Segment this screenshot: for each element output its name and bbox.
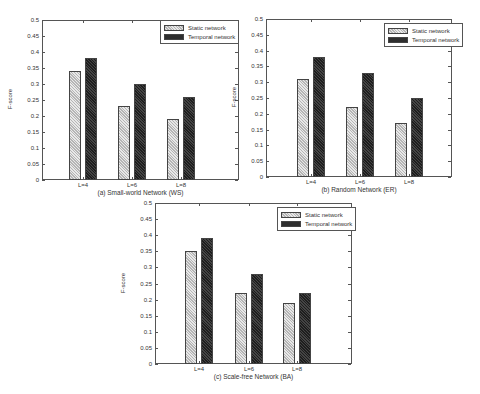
y-tick-label: 0.5 xyxy=(241,16,263,22)
legend-item-static: Static network xyxy=(388,26,459,35)
y-tick-mark-right xyxy=(348,203,351,204)
y-tick-mark xyxy=(42,148,45,149)
y-tick-mark-right xyxy=(235,52,238,53)
x-tick-mark xyxy=(181,177,182,180)
x-tick-mark xyxy=(311,174,312,177)
x-tick-mark-top xyxy=(297,203,298,206)
bar-static-l4 xyxy=(297,79,309,177)
y-tick-mark xyxy=(42,36,45,37)
legend-swatch-static xyxy=(388,28,408,34)
y-tick-mark xyxy=(155,284,158,285)
y-tick-mark-right xyxy=(348,251,351,252)
y-tick-mark-right xyxy=(448,145,451,146)
y-tick-mark xyxy=(266,177,269,178)
y-tick-label: 0.35 xyxy=(130,248,152,254)
y-tick-label: 0.5 xyxy=(130,200,152,206)
bar-temporal-l4 xyxy=(201,238,213,364)
legend: Static networkTemporal network xyxy=(277,207,356,231)
x-tick-label: L=4 xyxy=(184,366,214,372)
y-tick-mark-right xyxy=(348,267,351,268)
legend-item-temporal: Temporal network xyxy=(281,219,352,228)
y-tick-mark-right xyxy=(448,82,451,83)
y-tick-mark xyxy=(42,52,45,53)
bar-static-l4 xyxy=(185,251,197,364)
legend-swatch-static xyxy=(164,25,184,31)
y-tick-mark xyxy=(42,180,45,181)
y-tick-label: 0.25 xyxy=(130,281,152,287)
y-tick-label: 0.2 xyxy=(241,111,263,117)
y-tick-mark xyxy=(155,251,158,252)
y-tick-mark xyxy=(266,114,269,115)
x-tick-label: L=8 xyxy=(166,182,196,188)
y-tick-mark-right xyxy=(448,177,451,178)
x-tick-mark-top xyxy=(83,20,84,23)
x-tick-label: L=6 xyxy=(234,366,264,372)
bar-temporal-l4 xyxy=(313,57,325,177)
y-tick-label: 0.4 xyxy=(241,48,263,54)
legend-item-temporal: Temporal network xyxy=(164,32,235,41)
y-tick-mark xyxy=(266,98,269,99)
y-tick-mark-right xyxy=(235,84,238,85)
x-tick-mark xyxy=(132,177,133,180)
legend: Static networkTemporal network xyxy=(160,20,239,44)
chart-caption: (a) Small-world Network (WS) xyxy=(42,189,239,196)
legend-item-temporal: Temporal network xyxy=(388,35,459,44)
bar-static-l8 xyxy=(167,119,179,180)
x-tick-mark-top xyxy=(199,203,200,206)
y-tick-mark xyxy=(42,68,45,69)
x-tick-mark xyxy=(297,361,298,364)
y-axis-label: F-score xyxy=(231,87,237,107)
bar-temporal-l8 xyxy=(183,97,195,180)
y-tick-mark xyxy=(155,348,158,349)
y-tick-mark xyxy=(155,219,158,220)
bar-static-l8 xyxy=(283,303,295,364)
y-tick-label: 0.4 xyxy=(17,49,39,55)
y-tick-label: 0.4 xyxy=(130,232,152,238)
y-tick-label: 0 xyxy=(130,361,152,367)
bar-temporal-l6 xyxy=(362,73,374,177)
y-tick-label: 0.45 xyxy=(130,216,152,222)
y-tick-mark-right xyxy=(235,164,238,165)
y-tick-mark xyxy=(42,20,45,21)
y-tick-label: 0.05 xyxy=(241,158,263,164)
y-tick-mark xyxy=(155,364,158,365)
y-tick-label: 0.1 xyxy=(130,329,152,335)
legend-item-static: Static network xyxy=(164,23,235,32)
legend-swatch-temporal xyxy=(388,37,408,43)
y-tick-mark-right xyxy=(348,364,351,365)
y-tick-label: 0.45 xyxy=(17,33,39,39)
legend-swatch-static xyxy=(281,212,301,218)
y-tick-label: 0.15 xyxy=(241,127,263,133)
legend: Static networkTemporal network xyxy=(384,23,463,47)
y-tick-label: 0.2 xyxy=(130,297,152,303)
x-tick-label: L=8 xyxy=(394,179,424,185)
legend-label-static: Static network xyxy=(412,28,450,34)
y-tick-mark xyxy=(266,66,269,67)
legend-label-static: Static network xyxy=(305,212,343,218)
y-tick-mark-right xyxy=(448,161,451,162)
y-tick-mark-right xyxy=(348,235,351,236)
x-tick-mark xyxy=(83,177,84,180)
x-tick-mark xyxy=(199,361,200,364)
legend-label-temporal: Temporal network xyxy=(412,37,459,43)
legend-label-temporal: Temporal network xyxy=(188,34,235,40)
y-tick-mark-right xyxy=(448,114,451,115)
y-tick-mark-right xyxy=(348,300,351,301)
y-tick-label: 0.25 xyxy=(241,95,263,101)
y-tick-mark xyxy=(42,164,45,165)
y-tick-label: 0.15 xyxy=(130,313,152,319)
y-tick-mark-right xyxy=(448,19,451,20)
y-tick-label: 0.1 xyxy=(241,142,263,148)
y-tick-mark xyxy=(155,203,158,204)
y-tick-mark xyxy=(155,235,158,236)
y-tick-mark-right xyxy=(235,116,238,117)
x-tick-mark-top xyxy=(409,19,410,22)
legend-label-temporal: Temporal network xyxy=(305,221,352,227)
y-tick-label: 0.05 xyxy=(130,345,152,351)
chart-caption: (b) Random Network (ER) xyxy=(266,186,452,193)
y-tick-mark xyxy=(266,35,269,36)
x-tick-mark-top xyxy=(249,203,250,206)
x-tick-label: L=6 xyxy=(345,179,375,185)
bar-static-l4 xyxy=(69,71,81,180)
y-tick-label: 0.15 xyxy=(17,129,39,135)
